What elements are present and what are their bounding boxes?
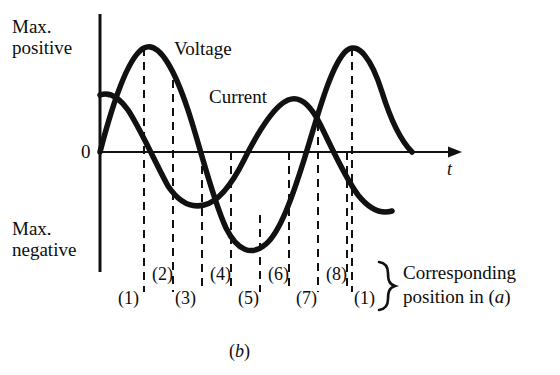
y-axis-max-negative-label: Max. negative [12, 218, 76, 261]
annotation-line-2-text: position in (a) [403, 286, 511, 307]
current-curve-label: Current [209, 86, 267, 107]
brace-icon [379, 262, 395, 310]
max-positive-line1: Max. [12, 16, 72, 37]
max-negative-line2: negative [12, 239, 76, 260]
marker-label-1b: (1) [354, 288, 375, 309]
annotation-line-1: Corresponding [403, 261, 516, 285]
x-axis-t-label: t [447, 159, 452, 180]
marker-label-1a: (1) [118, 288, 139, 309]
max-positive-line2: positive [12, 37, 72, 58]
marker-dashed-lines [144, 48, 352, 292]
annotation-line-2: position in (a) [403, 285, 516, 309]
corresponding-position-annotation: Corresponding position in (a) [403, 261, 516, 309]
voltage-curve-label: Voltage [174, 38, 232, 59]
x-axis-arrow-icon [448, 147, 462, 158]
y-axis-max-positive-label: Max. positive [12, 16, 72, 59]
marker-label-3: (3) [175, 288, 196, 309]
marker-label-8: (8) [326, 264, 347, 285]
marker-label-7: (7) [296, 288, 317, 309]
origin-zero-label: 0 [81, 141, 91, 163]
marker-label-4: (4) [210, 264, 231, 285]
marker-label-2: (2) [152, 264, 173, 285]
marker-label-6: (6) [268, 264, 289, 285]
waveform-figure [0, 0, 560, 375]
marker-label-5: (5) [238, 288, 259, 309]
figure-caption: (b) [229, 341, 250, 362]
max-negative-line1: Max. [12, 218, 76, 239]
